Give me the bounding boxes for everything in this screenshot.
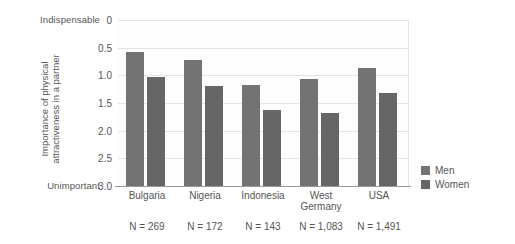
bar-men xyxy=(358,68,376,186)
plot-area xyxy=(118,20,409,186)
y-axis-title-line-1: Importance of physical xyxy=(39,24,50,194)
bar-group xyxy=(350,20,408,186)
bar-men xyxy=(184,60,202,186)
y-axis-tick-label: 2.5 xyxy=(72,153,112,164)
bar-men xyxy=(300,79,318,186)
x-axis-category-label: USA xyxy=(342,190,416,201)
bar-men xyxy=(242,85,260,186)
bar-women xyxy=(321,113,339,186)
y-axis-tick-label: 3.0 xyxy=(72,181,112,192)
bar-group xyxy=(234,20,292,186)
legend-label-women: Women xyxy=(435,179,469,190)
y-axis-tick-labels: 3.02.52.01.51.00.50 xyxy=(72,0,112,244)
bar-women xyxy=(147,77,165,186)
y-axis-tick-label: 1.5 xyxy=(72,98,112,109)
bar-women xyxy=(379,93,397,186)
legend-item-women: Women xyxy=(421,177,469,191)
bar-women xyxy=(205,86,223,186)
legend: Men Women xyxy=(421,163,469,191)
bar-group xyxy=(118,20,176,186)
bar-group xyxy=(176,20,234,186)
y-axis-tick-label: 1.0 xyxy=(72,70,112,81)
legend-item-men: Men xyxy=(421,163,469,177)
legend-swatch-women-icon xyxy=(421,180,430,189)
y-axis-title-line-2: attractiveness in a partner xyxy=(50,24,61,194)
bar-chart-figure: Indispensable Unimportant Importance of … xyxy=(0,0,515,244)
bar-group xyxy=(292,20,350,186)
x-axis-category-label-line-2: Germany xyxy=(284,201,358,212)
sample-size-label: N = 1,491 xyxy=(342,221,416,232)
legend-swatch-men-icon xyxy=(421,166,430,175)
bar-men xyxy=(126,52,144,186)
y-axis-tick-label: 0 xyxy=(72,15,112,26)
x-axis-line xyxy=(115,186,411,187)
legend-label-men: Men xyxy=(435,165,454,176)
bar-women xyxy=(263,110,281,186)
y-axis-tick-label: 2.0 xyxy=(72,125,112,136)
y-axis-tick-label: 0.5 xyxy=(72,42,112,53)
y-axis-title: Importance of physical attractiveness in… xyxy=(39,24,61,194)
